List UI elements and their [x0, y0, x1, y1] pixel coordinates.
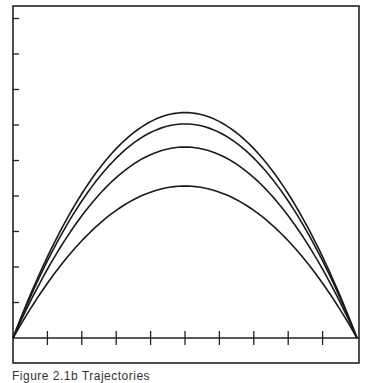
frame	[13, 6, 359, 363]
curves	[13, 113, 357, 338]
y-ticks	[13, 19, 19, 303]
trajectory-curve-4	[13, 186, 357, 338]
figure-caption: Figure 2.1b Trajectories	[12, 369, 150, 383]
trajectory-curve-2	[13, 124, 357, 338]
trajectory-curve-3	[13, 147, 357, 338]
